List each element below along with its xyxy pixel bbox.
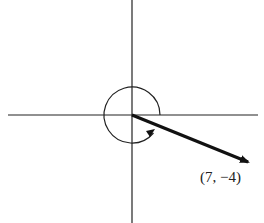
diagram-svg: [0, 0, 264, 223]
arc-arrowhead-icon: [146, 129, 155, 137]
vector-arrow: [132, 115, 248, 162]
point-label: (7, −4): [200, 169, 241, 186]
diagram-canvas: (7, −4): [0, 0, 264, 223]
